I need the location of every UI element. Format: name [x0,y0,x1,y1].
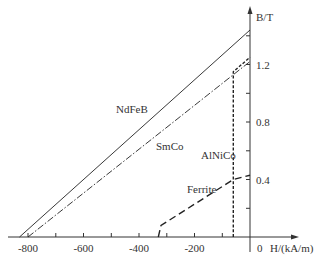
x-axis-label: H/(kA/m) [270,242,314,255]
y-tick-label: 0.4 [256,174,270,186]
x-tick-label: -400 [129,242,150,254]
ndfeb-label: NdFeB [116,103,148,115]
origin-label: 0 [257,242,263,254]
alnico-label: AlNiCo [201,149,236,161]
ferrite-label: Ferrite [187,183,216,195]
y-tick-label: 1.2 [256,59,270,71]
smco-label: SmCo [156,140,184,152]
y-ticks [246,36,250,209]
x-tick-label: -200 [184,242,205,254]
x-axis-arrow-icon [291,235,299,240]
demagnetization-chart: -800 -600 -400 -200 0 H/(kA/m) 0.4 0.8 1… [0,0,316,260]
ndfeb-curve [20,30,251,237]
y-tick-label: 0.8 [256,116,270,128]
alnico-curve [233,57,250,237]
x-tick-label: -800 [18,242,39,254]
x-ticks [28,233,222,237]
x-tick-label: -600 [73,242,94,254]
y-axis-arrow-icon [248,6,253,14]
y-axis-label: B/T [256,11,273,23]
